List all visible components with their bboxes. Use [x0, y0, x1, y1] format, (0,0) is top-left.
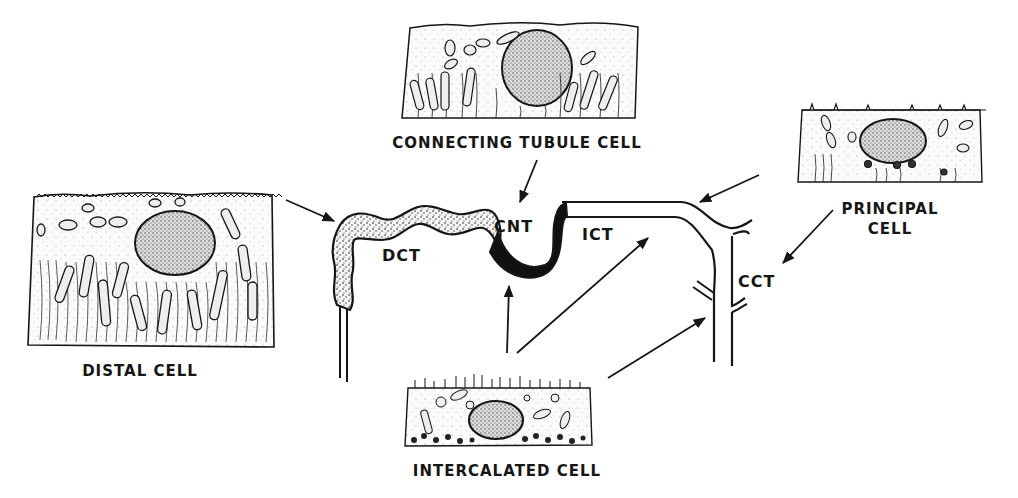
connecting-tubule-cell-label: CONNECTING TUBULE CELL	[392, 134, 642, 152]
dct-label: DCT	[382, 246, 421, 265]
ict-label: ICT	[582, 225, 614, 244]
arrow-intercalated-to-cnt	[507, 286, 509, 353]
arrow-principal-to-ict	[700, 175, 759, 202]
cct-right-wall	[732, 231, 749, 366]
cnt-label: CNT	[494, 217, 533, 236]
cnt-segment	[490, 203, 567, 278]
arrow-connecting-to-cnt	[520, 160, 537, 202]
distal-cell-illustration	[28, 193, 282, 347]
diagram-canvas: CONNECTING TUBULE CELL DISTAL CELL PRINC…	[0, 0, 1018, 498]
principal-cell-illustration	[798, 104, 986, 182]
principal-cell-label-line2: CELL	[835, 220, 945, 238]
arrow-distal-to-dct	[286, 200, 334, 221]
intercalated-cell-illustration	[405, 374, 592, 446]
arrow-intercalated-to-cct	[608, 318, 705, 378]
connecting-tubule-cell-illustration	[402, 23, 638, 118]
arrow-principal-to-cct	[783, 210, 833, 263]
principal-cell-label-line1: PRINCIPAL	[835, 200, 945, 218]
arrow-intercalated-to-ict	[517, 238, 648, 353]
tubule-schematic	[333, 202, 752, 382]
intercalated-cell-label: INTERCALATED CELL	[412, 462, 602, 480]
cct-label: CCT	[738, 272, 775, 291]
arrows	[286, 160, 833, 378]
distal-cell-label: DISTAL CELL	[60, 362, 220, 380]
